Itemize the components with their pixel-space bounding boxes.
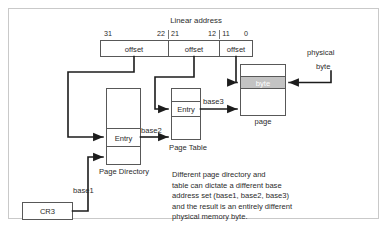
linear-address-title: Linear address <box>170 16 222 25</box>
physical-label: physical <box>307 48 335 57</box>
physical-byte-label: byte <box>316 62 330 71</box>
note-line-2: table can dictate a different base <box>172 181 282 190</box>
base3-label: base3 <box>203 97 224 106</box>
bit-label-22: 22 <box>157 29 165 38</box>
note-line-5: physical memory byte. <box>172 212 248 221</box>
base1-label: base1 <box>73 186 94 195</box>
bit-label-0: 0 <box>244 29 248 38</box>
page-byte-cell-label: byte <box>256 79 270 88</box>
page-table-box <box>172 89 201 140</box>
note-line-1: Different page directory and <box>172 170 266 179</box>
page-directory-box <box>107 89 141 165</box>
cr3-label: CR3 <box>40 207 55 216</box>
page-directory-entry-label: Entry <box>115 134 133 143</box>
note-line-4: and the result is an entirely different <box>172 202 293 211</box>
page-box <box>241 65 286 116</box>
note-line-3: address set (base1, base2, base3) <box>172 191 289 200</box>
base2-label: base2 <box>141 126 162 135</box>
page-table-caption: Page Table <box>169 143 207 152</box>
bit-label-12: 12 <box>208 29 216 38</box>
bit-label-21: 21 <box>171 29 179 38</box>
page-directory-caption: Page Directory <box>99 167 149 176</box>
paging-translation-diagram: Linear address 31 22 21 12 11 0 offset o… <box>0 0 391 230</box>
page-table-entry-label: Entry <box>177 105 195 114</box>
bit-label-31: 31 <box>104 29 112 38</box>
diagram-page: Linear address 31 22 21 12 11 0 offset o… <box>0 0 391 230</box>
connector-base1-cr3-to-directory <box>73 157 104 211</box>
address-field-dir-offset: offset <box>125 45 144 54</box>
bit-label-11: 11 <box>222 29 229 38</box>
address-field-table-offset: offset <box>185 45 204 54</box>
address-field-page-offset: offset <box>227 45 246 54</box>
page-caption: page <box>255 117 272 126</box>
connector-page-offset-to-byte <box>236 57 237 83</box>
connector-physical-byte-callout <box>289 71 331 83</box>
